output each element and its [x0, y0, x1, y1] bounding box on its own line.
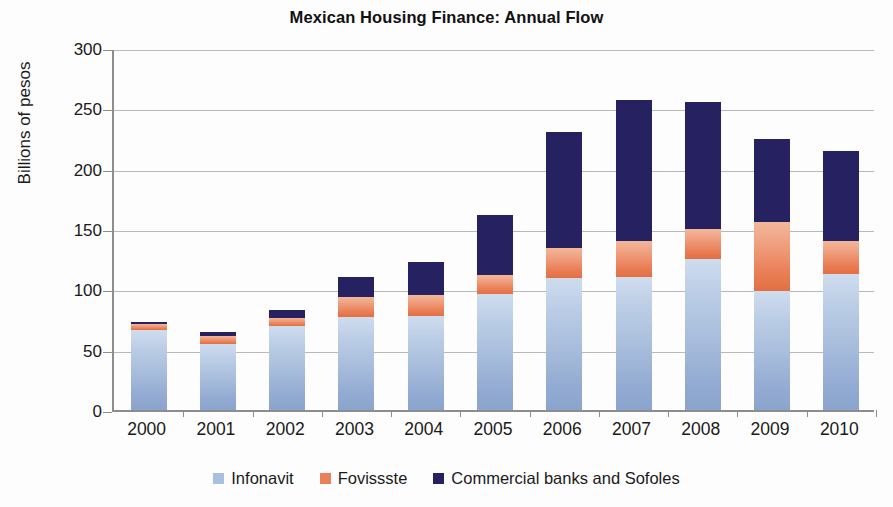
x-axis-tick-mark [322, 410, 323, 417]
chart-legend: InfonavitFovisssteCommercial banks and S… [0, 470, 893, 487]
x-axis-tick-label: 2003 [320, 421, 389, 439]
bar-2008[interactable] [685, 102, 721, 410]
bar-segment-commercial[interactable] [269, 310, 305, 318]
y-axis-tick-label: 0 [42, 403, 102, 420]
legend-label: Infonavit [231, 470, 293, 487]
x-axis-tick-mark [183, 410, 184, 417]
bar-2006[interactable] [546, 132, 582, 410]
bar-segment-commercial[interactable] [338, 277, 374, 296]
bar-segment-commercial[interactable] [823, 151, 859, 242]
bar-segment-infonavit[interactable] [269, 326, 305, 410]
x-axis-tick-mark [807, 410, 808, 417]
x-axis-tick-mark [668, 410, 669, 417]
bar-segment-fovissste[interactable] [408, 295, 444, 316]
bar-segment-infonavit[interactable] [685, 259, 721, 410]
bar-segment-fovissste[interactable] [754, 222, 790, 291]
bar-segment-fovissste[interactable] [269, 318, 305, 325]
x-axis-tick-label: 2010 [805, 421, 874, 439]
bar-segment-infonavit[interactable] [338, 317, 374, 410]
bar-segment-infonavit[interactable] [616, 277, 652, 410]
bar-segment-commercial[interactable] [408, 262, 444, 296]
x-axis-tick-label: 2006 [528, 421, 597, 439]
y-axis-tick-label: 200 [42, 162, 102, 179]
bar-2001[interactable] [200, 332, 236, 410]
x-axis-tick-label: 2001 [181, 421, 250, 439]
x-axis-tick-label: 2000 [112, 421, 181, 439]
bar-2003[interactable] [338, 277, 374, 410]
y-axis-tick-mark [103, 412, 112, 413]
legend-item[interactable]: Commercial banks and Sofoles [433, 470, 679, 487]
y-axis-tick-labels: 050100150200250300 [42, 50, 102, 412]
x-axis-tick-mark [737, 410, 738, 417]
gridline [114, 50, 874, 51]
x-axis-tick-mark [460, 410, 461, 417]
bar-segment-commercial[interactable] [546, 132, 582, 248]
bar-segment-fovissste[interactable] [477, 275, 513, 294]
bar-segment-commercial[interactable] [754, 139, 790, 222]
plot-area [112, 50, 874, 412]
bar-segment-fovissste[interactable] [546, 248, 582, 278]
x-axis-tick-mark [876, 410, 877, 417]
y-axis-tick-mark [103, 171, 112, 172]
x-axis-tick-mark [391, 410, 392, 417]
bar-segment-fovissste[interactable] [131, 324, 167, 330]
legend-item[interactable]: Infonavit [213, 470, 293, 487]
bar-segment-infonavit[interactable] [408, 316, 444, 410]
bar-2010[interactable] [823, 151, 859, 410]
x-axis-tick-mark [253, 410, 254, 417]
legend-swatch-icon [320, 473, 331, 484]
y-axis-title: Billions of pesos [15, 0, 35, 288]
legend-label: Fovissste [338, 470, 408, 487]
bar-segment-fovissste[interactable] [338, 297, 374, 318]
bar-segment-fovissste[interactable] [200, 336, 236, 343]
bar-2000[interactable] [131, 322, 167, 410]
bar-segment-infonavit[interactable] [200, 344, 236, 410]
bar-segment-commercial[interactable] [200, 332, 236, 337]
gridline [114, 110, 874, 111]
bar-segment-infonavit[interactable] [131, 330, 167, 410]
bar-2002[interactable] [269, 310, 305, 410]
bar-segment-fovissste[interactable] [685, 229, 721, 259]
y-axis-tick-mark [103, 352, 112, 353]
bar-segment-commercial[interactable] [616, 100, 652, 241]
legend-label: Commercial banks and Sofoles [451, 470, 679, 487]
y-axis-tick-mark [103, 50, 112, 51]
legend-swatch-icon [213, 473, 224, 484]
bar-segment-infonavit[interactable] [546, 278, 582, 410]
page-title: Mexican Housing Finance: Annual Flow [0, 8, 893, 27]
bar-segment-infonavit[interactable] [477, 294, 513, 410]
y-axis-tick-mark [103, 291, 112, 292]
y-axis-tick-label: 250 [42, 101, 102, 118]
bar-2005[interactable] [477, 215, 513, 410]
x-axis-tick-label: 2009 [735, 421, 804, 439]
y-axis-tick-label: 150 [42, 222, 102, 239]
bar-segment-fovissste[interactable] [823, 241, 859, 274]
y-axis-tick-label: 300 [42, 41, 102, 58]
y-axis-tick-mark [103, 110, 112, 111]
x-axis-tick-mark [530, 410, 531, 417]
legend-swatch-icon [433, 473, 444, 484]
bar-segment-commercial[interactable] [477, 215, 513, 275]
y-axis-tick-label: 50 [42, 343, 102, 360]
bar-2007[interactable] [616, 100, 652, 410]
bar-segment-infonavit[interactable] [754, 291, 790, 410]
x-axis-tick-label: 2004 [389, 421, 458, 439]
y-axis-tick-label: 100 [42, 282, 102, 299]
bar-2009[interactable] [754, 139, 790, 411]
y-axis-tick-mark [103, 231, 112, 232]
bar-2004[interactable] [408, 262, 444, 410]
x-axis-tick-labels: 2000200120022003200420052006200720082009… [112, 421, 874, 449]
bar-segment-commercial[interactable] [685, 102, 721, 229]
bar-segment-infonavit[interactable] [823, 274, 859, 410]
legend-item[interactable]: Fovissste [320, 470, 408, 487]
bar-segment-commercial[interactable] [131, 322, 167, 324]
bar-segment-fovissste[interactable] [616, 241, 652, 277]
x-axis-tick-mark [599, 410, 600, 417]
x-axis-tick-label: 2005 [458, 421, 527, 439]
x-axis-tick-label: 2002 [251, 421, 320, 439]
x-axis-tick-label: 2008 [666, 421, 735, 439]
chart-figure: Mexican Housing Finance: Annual Flow Bil… [0, 0, 893, 507]
x-axis-tick-label: 2007 [597, 421, 666, 439]
